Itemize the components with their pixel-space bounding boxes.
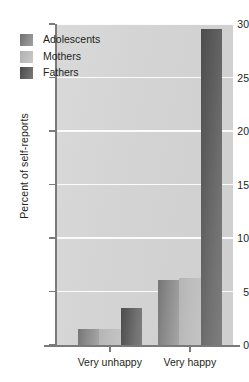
x-axis-line (44, 345, 240, 347)
legend-label: Fathers (43, 66, 79, 78)
y-axis-tick (49, 291, 55, 293)
gridline (57, 24, 233, 25)
x-axis-tick-label: Very happy (135, 356, 245, 368)
legend-swatch-icon (20, 51, 33, 63)
legend-swatch-icon (20, 67, 33, 79)
x-axis-tick (109, 346, 111, 352)
legend-swatch-icon (20, 34, 33, 46)
bar-adolescents-very-happy (158, 280, 180, 345)
bar-adolescents-very-unhappy (78, 329, 100, 345)
y-axis-tick (49, 23, 55, 25)
plot-area (57, 24, 233, 345)
bar-mothers-very-happy (179, 278, 201, 345)
y-axis-tick (49, 237, 55, 239)
bar-fathers-very-unhappy (121, 308, 143, 345)
y-axis-tick (49, 184, 55, 186)
bar-chart-figure: Percent of self-reports 051015202530 Ver… (0, 0, 249, 382)
legend-label: Adolescents (43, 33, 100, 45)
x-axis-tick (189, 346, 191, 352)
legend-label: Mothers (43, 50, 81, 62)
bar-mothers-very-unhappy (99, 329, 121, 345)
y-axis-tick (49, 130, 55, 132)
y-axis-title: Percent of self-reports (18, 66, 30, 266)
bar-fathers-very-happy (201, 29, 223, 345)
